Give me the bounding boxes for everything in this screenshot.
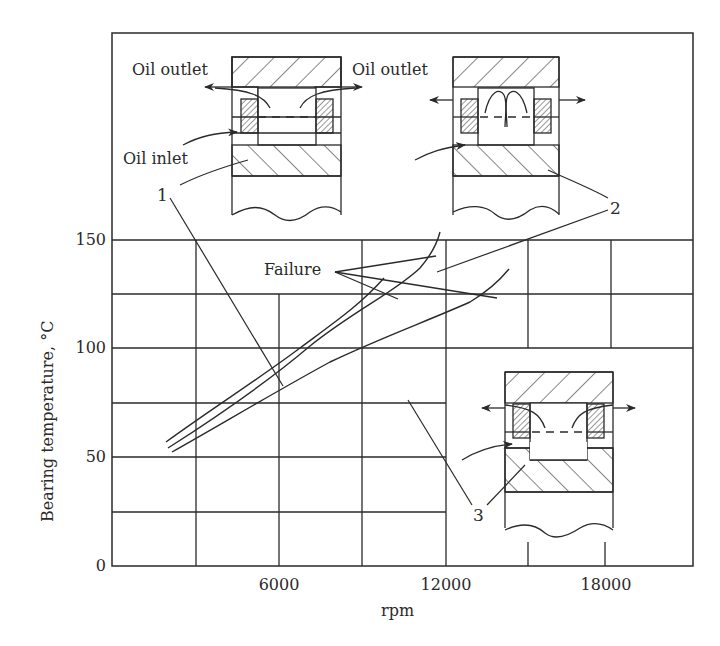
y-tick-0: 0 [56,556,106,575]
curve-2-label: 2 [610,198,621,218]
oil-outlet-right-label: Oil outlet [352,60,428,79]
x-tick-18000: 18000 [571,575,641,594]
x-axis-title: rpm [381,601,414,620]
curve-1 [166,278,384,442]
x-tick-12000: 12000 [411,575,481,594]
oil-inlet-label: Oil inlet [123,149,188,168]
bearing-diagram-1 [183,57,362,221]
curve-3-label: 3 [473,505,484,525]
curve-1-label: 1 [157,185,168,205]
y-tick-50: 50 [56,447,106,466]
oil-outlet-left-label: Oil outlet [132,60,208,79]
curve-3 [172,269,509,452]
y-axis-title: Bearing temperature, °C [38,321,57,522]
y-tick-100: 100 [56,338,106,357]
bearing-diagram-2 [415,57,585,219]
y-tick-150: 150 [56,230,106,249]
failure-annotation: Failure [264,260,321,279]
x-tick-6000: 6000 [244,575,314,594]
failure-leaders [335,256,497,299]
bearing-diagram-3 [462,372,635,537]
chart-figure [0,0,720,646]
